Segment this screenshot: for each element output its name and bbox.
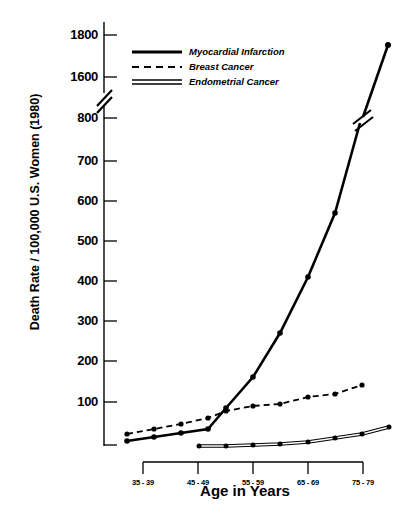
ytick-label: 500 (40, 234, 98, 247)
ytick-label: 100 (40, 395, 98, 408)
legend-label-myocardial-infarction: Myocardial Infarction (189, 47, 285, 57)
y-axis-title: Death Rate / 100,000 U.S. Women (1980) (28, 67, 42, 357)
legend-label-breast-cancer: Breast Cancer (189, 62, 253, 72)
ytick-label: 1800 (40, 28, 98, 41)
chart-figure: 1800 1600 800 700 600 500 400 300 200 10… (0, 0, 410, 515)
ytick-label: 600 (40, 194, 98, 207)
ytick-label: 700 (40, 154, 98, 167)
ytick-label: 800 (40, 111, 98, 124)
x-tick-marks (143, 462, 363, 474)
series-breast-cancer (124, 382, 364, 436)
legend-key-endometrial-cancer (132, 80, 182, 84)
series-endometrial-cancer (197, 425, 392, 449)
series-myocardial-infarction (124, 42, 391, 444)
legend-label-endometrial-cancer: Endometrial Cancer (189, 77, 279, 87)
ytick-label: 300 (40, 314, 98, 327)
ytick-label: 200 (40, 354, 98, 367)
x-axis-title: Age in Years (100, 482, 390, 499)
ytick-label: 400 (40, 274, 98, 287)
ytick-label: 1600 (40, 70, 98, 83)
